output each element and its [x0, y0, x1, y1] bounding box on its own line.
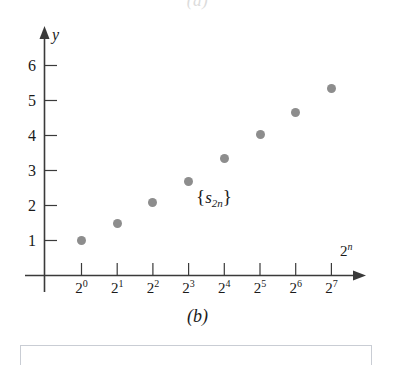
x-tick-exponent: 7 [333, 278, 338, 289]
x-tick-label: 24 [204, 281, 244, 296]
x-tick-marks [82, 263, 332, 276]
x-axis-label-base: 2 [340, 243, 348, 259]
x-tick-base: 2 [289, 280, 297, 296]
y-tick-label: 2 [14, 198, 36, 214]
x-axis-label-exponent: n [348, 241, 353, 252]
y-axis-label: y [52, 26, 59, 44]
x-tick-label: 27 [311, 281, 351, 296]
x-tick-label: 22 [133, 281, 173, 296]
data-point [113, 219, 122, 228]
x-tick-exponent: 4 [226, 278, 231, 289]
x-tick-exponent: 2 [154, 278, 159, 289]
series-brace-close: } [223, 186, 232, 207]
x-tick-base: 2 [218, 280, 226, 296]
x-tick-exponent: 0 [83, 278, 88, 289]
x-tick-exponent: 5 [261, 278, 266, 289]
x-tick-label: 21 [97, 281, 137, 296]
data-point [256, 130, 265, 139]
figure-caption-bottom: (b) [0, 306, 395, 327]
y-axis-arrow-icon [40, 26, 50, 39]
y-tick-label: 6 [14, 58, 36, 74]
series-subscript: 2n [212, 197, 223, 209]
x-tick-label: 20 [62, 281, 102, 296]
y-tick-label: 4 [14, 128, 36, 144]
data-point [327, 84, 336, 93]
x-axis-label: 2n [340, 243, 353, 260]
y-tick-label: 3 [14, 163, 36, 179]
y-tick-label: 1 [14, 233, 36, 249]
x-tick-exponent: 1 [118, 278, 123, 289]
x-tick-base: 2 [75, 280, 83, 296]
data-point [77, 236, 86, 245]
x-tick-label: 23 [169, 281, 209, 296]
series-annotation: {s2n} [196, 186, 232, 208]
axes-svg [0, 0, 395, 300]
series-brace-open: { [196, 186, 205, 207]
data-point [291, 108, 300, 117]
x-tick-base: 2 [182, 280, 190, 296]
x-tick-exponent: 6 [297, 278, 302, 289]
bottom-frame-box [20, 345, 372, 365]
x-tick-label: 25 [240, 281, 280, 296]
data-point [220, 154, 229, 163]
series-symbol: s [205, 188, 212, 207]
scatter-plot: y 2n 1 2 3 4 5 6 20 21 22 23 24 25 26 27… [0, 0, 395, 300]
x-axis-arrow-icon [353, 271, 366, 281]
x-tick-label: 26 [276, 281, 316, 296]
x-tick-exponent: 3 [190, 278, 195, 289]
x-tick-base: 2 [325, 280, 333, 296]
y-tick-marks [45, 66, 58, 241]
y-tick-label: 5 [14, 93, 36, 109]
